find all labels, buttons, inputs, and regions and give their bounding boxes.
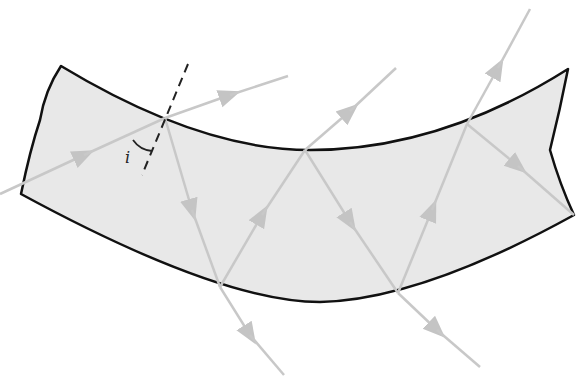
angle-label-i: i bbox=[125, 148, 130, 167]
fiber-body bbox=[21, 66, 574, 302]
fiber-diagram bbox=[0, 0, 578, 385]
